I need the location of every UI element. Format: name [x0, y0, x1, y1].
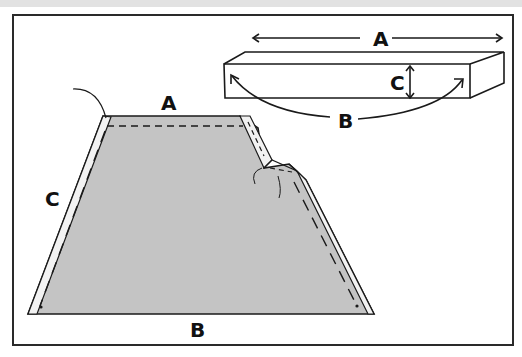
block-label-c: C — [390, 71, 405, 95]
diagram-illustration: A C B A C B — [0, 0, 522, 357]
block-label-b: B — [338, 109, 353, 133]
panel-label-b: B — [190, 318, 205, 342]
block-label-a: A — [373, 27, 389, 51]
block-figure — [224, 34, 504, 119]
panel-label-c: C — [45, 187, 60, 211]
panel-label-a: A — [161, 91, 177, 115]
fabric-panel — [28, 89, 374, 314]
